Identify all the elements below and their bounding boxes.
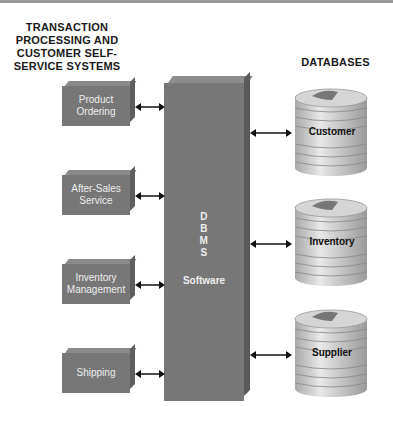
double-arrow-icon <box>250 239 292 249</box>
dbms-software-label: Software <box>164 275 244 286</box>
database-label: Supplier <box>294 347 370 358</box>
dbms-letters: D B M S <box>164 211 244 259</box>
dbms-software-block: D B M S Software <box>164 83 244 401</box>
double-arrow-icon <box>135 369 165 379</box>
top-rule <box>0 0 393 3</box>
dbms-letter: B <box>164 223 244 235</box>
dbms-letter: D <box>164 211 244 223</box>
system-label: Management <box>67 284 125 296</box>
system-box-inventory-management: InventoryManagement <box>62 264 130 304</box>
database-label: Customer <box>294 126 370 137</box>
dbms-letter: M <box>164 235 244 247</box>
system-label: Service <box>71 195 120 207</box>
system-label: After-Sales <box>71 183 120 195</box>
systems-heading-line: SERVICE SYSTEMS <box>2 60 132 73</box>
systems-heading-line: CUSTOMER SELF- <box>2 47 132 60</box>
systems-heading-line: PROCESSING AND <box>2 34 132 47</box>
system-label: Product <box>77 94 116 106</box>
databases-heading: DATABASES <box>293 56 378 69</box>
database-supplier: Supplier <box>294 309 370 399</box>
double-arrow-icon <box>135 280 165 290</box>
double-arrow-icon <box>135 102 165 112</box>
systems-heading: TRANSACTION PROCESSING AND CUSTOMER SELF… <box>2 21 132 73</box>
database-inventory: Inventory <box>294 198 370 288</box>
system-label: Inventory <box>67 272 125 284</box>
system-box-product-ordering: ProductOrdering <box>62 86 130 126</box>
system-box-shipping: Shipping <box>62 353 130 393</box>
system-label: Ordering <box>77 106 116 118</box>
system-label: Shipping <box>77 367 116 379</box>
database-label: Inventory <box>294 236 370 247</box>
double-arrow-icon <box>250 350 292 360</box>
database-customer: Customer <box>294 88 370 178</box>
double-arrow-icon <box>135 191 165 201</box>
double-arrow-icon <box>250 128 292 138</box>
system-box-after-sales-service: After-SalesService <box>62 175 130 215</box>
dbms-letter: S <box>164 247 244 259</box>
systems-heading-line: TRANSACTION <box>2 21 132 34</box>
